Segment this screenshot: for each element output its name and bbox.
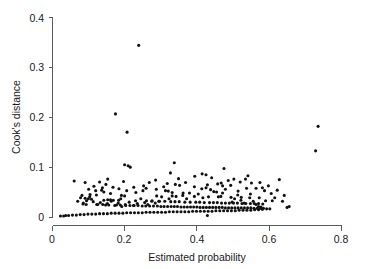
data-point — [132, 204, 135, 207]
data-point — [211, 206, 214, 209]
data-point — [152, 211, 155, 214]
data-point — [246, 174, 249, 177]
data-point — [184, 181, 187, 184]
data-point — [206, 183, 209, 186]
data-point — [146, 203, 149, 206]
y-tick-label-3: 0.3 — [29, 61, 44, 73]
data-point — [125, 211, 128, 214]
data-point — [145, 187, 148, 190]
data-point — [186, 205, 189, 208]
data-point — [79, 213, 82, 216]
data-point — [123, 163, 126, 166]
data-point — [236, 202, 239, 205]
plot-canvas: 0 0.1 0.2 0.3 0.4 0 0.2 0.4 0.6 0.8 Esti… — [0, 0, 365, 269]
data-point — [249, 202, 252, 205]
data-point — [75, 214, 78, 217]
data-point — [187, 210, 190, 213]
data-point — [102, 191, 105, 194]
data-point — [270, 192, 273, 195]
data-point — [59, 214, 62, 217]
data-point — [283, 194, 286, 197]
y-axis-ticks — [49, 18, 53, 218]
data-point — [129, 166, 132, 169]
data-point — [233, 206, 236, 209]
data-point — [220, 181, 223, 184]
data-point — [250, 181, 253, 184]
data-point — [113, 204, 116, 207]
data-point — [201, 196, 204, 199]
data-point — [141, 211, 144, 214]
data-point — [243, 202, 246, 205]
data-point — [92, 185, 95, 188]
data-point — [80, 194, 83, 197]
data-point — [193, 185, 196, 188]
data-point — [221, 206, 224, 209]
data-point — [215, 191, 218, 194]
data-point — [244, 178, 247, 181]
data-point — [226, 209, 229, 212]
data-point — [109, 192, 112, 195]
data-point — [278, 178, 281, 181]
data-point — [175, 195, 178, 198]
data-point — [156, 204, 159, 207]
data-point — [204, 186, 207, 189]
data-point — [224, 206, 227, 209]
data-point — [255, 187, 258, 190]
data-point — [231, 201, 234, 204]
data-point — [198, 206, 201, 209]
data-point — [199, 210, 202, 213]
data-point — [212, 190, 215, 193]
data-points-layer — [59, 44, 320, 218]
data-point — [104, 183, 107, 186]
data-point — [207, 195, 210, 198]
data-point — [155, 194, 158, 197]
data-point — [253, 208, 256, 211]
data-point — [193, 195, 196, 198]
data-point — [204, 173, 207, 176]
data-point — [67, 214, 70, 217]
data-point — [136, 202, 139, 205]
data-point — [240, 196, 243, 199]
data-point — [119, 197, 122, 200]
data-point — [208, 206, 211, 209]
data-point — [155, 188, 158, 191]
data-point — [114, 212, 117, 215]
data-point — [271, 199, 274, 202]
data-point — [148, 181, 151, 184]
data-point — [164, 189, 167, 192]
data-point — [203, 201, 206, 204]
data-point — [148, 211, 151, 214]
data-point — [82, 202, 85, 205]
data-point — [192, 205, 195, 208]
data-point — [141, 204, 144, 207]
data-point — [145, 211, 148, 214]
data-point — [265, 207, 268, 210]
data-point — [120, 205, 123, 208]
data-point — [160, 211, 163, 214]
data-point — [214, 209, 217, 212]
data-point — [267, 184, 270, 187]
y-tick-label-0: 0 — [38, 211, 44, 223]
data-point — [221, 191, 224, 194]
data-point — [110, 212, 113, 215]
x-tick-label-1: 0.2 — [117, 233, 132, 245]
data-point — [229, 196, 232, 199]
x-tick-label-3: 0.6 — [262, 233, 277, 245]
data-point — [219, 195, 222, 198]
data-point — [171, 194, 174, 197]
data-point — [314, 149, 317, 152]
data-point — [232, 178, 235, 181]
data-point — [183, 205, 186, 208]
data-point — [132, 186, 135, 189]
data-point — [137, 211, 140, 214]
data-point — [236, 193, 239, 196]
data-point — [94, 213, 97, 216]
data-point — [197, 192, 200, 195]
data-point — [249, 209, 252, 212]
data-point — [258, 196, 261, 199]
data-point — [177, 177, 180, 180]
data-point — [123, 194, 126, 197]
y-axis-title: Cook's distance — [10, 80, 22, 154]
data-point — [125, 189, 128, 192]
data-point — [191, 210, 194, 213]
